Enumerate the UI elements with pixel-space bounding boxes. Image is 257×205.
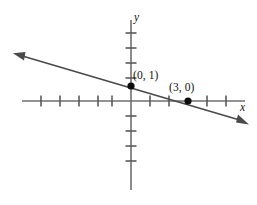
- point-label-x-intercept: (3, 0): [169, 81, 195, 93]
- graph-canvas: [0, 0, 257, 205]
- coordinate-plane-figure: (0, 1) (3, 0) y x: [0, 0, 257, 205]
- point-dot-y-intercept: [127, 82, 134, 89]
- line-arrowhead-right: [236, 115, 249, 125]
- point-label-y-intercept: (0, 1): [133, 69, 159, 81]
- x-axis-group: [22, 96, 245, 107]
- y-axis-label: y: [134, 11, 139, 23]
- x-axis-label: x: [240, 101, 245, 113]
- point-dot-x-intercept: [184, 97, 191, 104]
- line-arrowhead-left: [13, 52, 26, 61]
- y-axis-group: [126, 20, 137, 190]
